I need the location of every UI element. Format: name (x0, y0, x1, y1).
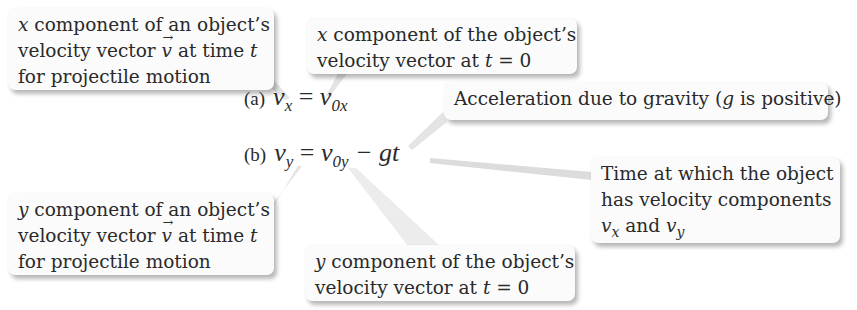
callout-line: velocity vector at t = 0 (317, 48, 567, 74)
text: Acceleration due to gravity ( (454, 88, 722, 109)
equation-label: (b) (244, 144, 266, 165)
var-x: x (18, 14, 28, 35)
callout-line: for projectile motion (18, 64, 264, 90)
text: component of an object’s (28, 14, 270, 35)
equation-a: (a)vx = v0x (244, 82, 347, 112)
subscript: 0x (331, 96, 347, 115)
text: = 0 (490, 277, 529, 298)
leader-v0y (348, 168, 440, 246)
callout-gravity: Acceleration due to gravity (g is positi… (444, 82, 828, 120)
var-v: v (274, 138, 286, 167)
var-v: v (273, 82, 285, 111)
callout-line: y component of the object’s (315, 249, 565, 275)
velocity-vector-symbol: v (162, 223, 172, 249)
callout-line: vx and vy (601, 213, 830, 239)
callout-line: has velocity components (601, 187, 830, 213)
text: component of the object’s (325, 251, 574, 272)
var-y: y (18, 199, 28, 220)
callout-line: for projectile motion (18, 249, 264, 275)
leader-time (430, 158, 592, 180)
text: = 0 (492, 50, 531, 71)
equation-label: (a) (244, 88, 265, 109)
text: is positive) (734, 88, 842, 109)
callout-v0x-definition: x component of the object’s velocity vec… (307, 18, 577, 74)
text: at time (172, 225, 250, 246)
text: velocity vector at (317, 50, 485, 71)
var-v: v (321, 138, 333, 167)
subscript: y (286, 152, 294, 171)
text: component of the object’s (327, 24, 576, 45)
subscript: x (285, 96, 293, 115)
callout-v0y-definition: y component of the object’s velocity vec… (305, 245, 575, 301)
callout-vy-definition: y component of an object’s velocity vect… (8, 193, 274, 275)
text: velocity vector (18, 40, 162, 61)
equals-sign: = (299, 82, 314, 111)
var-v: v (601, 215, 611, 236)
text: velocity vector at (315, 277, 483, 298)
leader-vy (270, 166, 302, 212)
subscript: 0y (332, 152, 348, 171)
text: component of an object’s (28, 199, 270, 220)
var-v: v (666, 215, 676, 236)
callout-line: x component of the object’s (317, 22, 567, 48)
callout-line: y component of an object’s (18, 197, 264, 223)
var-x: x (317, 24, 327, 45)
var-y: y (315, 251, 325, 272)
leader-gravity (408, 112, 447, 150)
var-g: g (722, 88, 734, 109)
equation-b: (b)vy = v0y − gt (244, 138, 399, 168)
velocity-vector-symbol: v (162, 38, 172, 64)
var-v: v (320, 82, 332, 111)
callout-line: x component of an object’s (18, 12, 264, 38)
subscript-y: y (676, 224, 684, 240)
var-t: t (250, 225, 257, 246)
callout-line: velocity vector at t = 0 (315, 275, 565, 301)
callout-line: velocity vector v at time t (18, 223, 264, 249)
callout-line: Acceleration due to gravity (g is positi… (454, 86, 818, 112)
callout-line: Time at which the object (601, 161, 830, 187)
callout-time-definition: Time at which the object has velocity co… (591, 157, 840, 243)
text: and (619, 215, 666, 236)
callout-vx-definition: x component of an object’s velocity vect… (8, 8, 274, 90)
var-t: t (250, 40, 257, 61)
equals-sign: = (300, 138, 315, 167)
text: velocity vector (18, 225, 162, 246)
callout-line: velocity vector v at time t (18, 38, 264, 64)
text: at time (172, 40, 250, 61)
gravity-term: − gt (355, 138, 399, 167)
